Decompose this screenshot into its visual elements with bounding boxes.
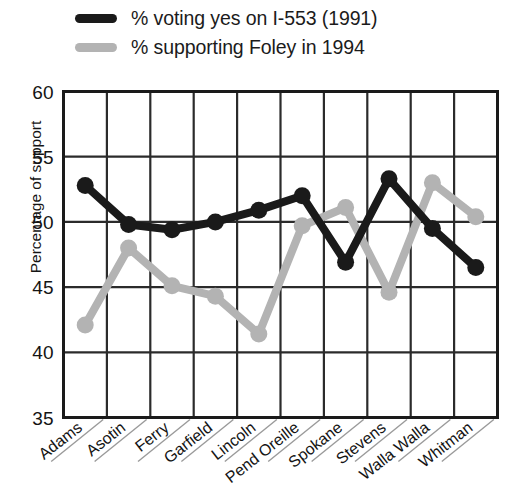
data-point — [424, 220, 441, 237]
data-point — [207, 213, 224, 230]
y-tick-label: 60 — [32, 82, 53, 103]
y-tick-label: 35 — [32, 408, 53, 429]
chart-plot: 354045505560 AdamsAsotinFerryGarfieldLin… — [0, 0, 507, 499]
y-tick-label: 45 — [32, 277, 53, 298]
data-point — [381, 284, 398, 301]
data-point — [77, 177, 94, 194]
y-tick-label: 50 — [32, 212, 53, 233]
data-point — [294, 217, 311, 234]
data-point — [207, 288, 224, 305]
y-tick-label: 55 — [32, 147, 53, 168]
y-tick-labels: 354045505560 — [32, 82, 53, 429]
data-point — [77, 316, 94, 333]
data-point — [120, 239, 137, 256]
data-point — [467, 259, 484, 276]
chart-container: % voting yes on I-553 (1991) % supportin… — [0, 0, 507, 499]
y-tick-label: 40 — [32, 342, 53, 363]
data-point — [120, 216, 137, 233]
data-point — [164, 221, 181, 238]
data-point — [467, 208, 484, 225]
data-point — [250, 326, 267, 343]
x-tick-labels: AdamsAsotinFerryGarfieldLincolnPend Orei… — [35, 418, 493, 486]
data-point — [337, 254, 354, 271]
svg-text:Garfield: Garfield — [161, 418, 216, 466]
data-point — [381, 170, 398, 187]
data-point — [294, 187, 311, 204]
data-point — [250, 202, 267, 219]
data-point — [337, 199, 354, 216]
data-point — [164, 277, 181, 294]
x-tick-label: Garfield — [161, 418, 216, 466]
data-point — [424, 174, 441, 191]
